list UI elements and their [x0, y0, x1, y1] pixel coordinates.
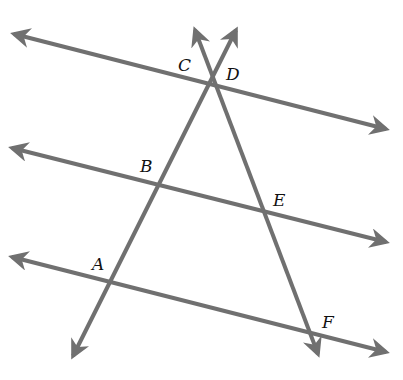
parallel-line-middle — [12, 148, 386, 242]
transversal-line-CEF — [195, 30, 318, 354]
geometry-diagram: CDBEAF — [0, 0, 403, 380]
point-label-b: B — [139, 156, 153, 176]
point-label-a: A — [90, 254, 104, 274]
point-label-c: C — [178, 55, 191, 75]
point-label-f: F — [321, 312, 335, 332]
parallel-line-bottom — [12, 257, 386, 352]
point-label-e: E — [272, 190, 286, 210]
point-label-d: D — [225, 64, 240, 84]
